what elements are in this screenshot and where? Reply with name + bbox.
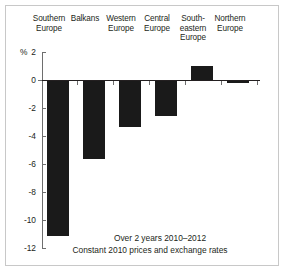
y-tick-label-neg8: -8 xyxy=(10,188,36,197)
x-tick-mark-3 xyxy=(149,81,150,85)
x-tick-mark-4 xyxy=(185,81,186,85)
y-tick-mark-neg8 xyxy=(42,192,46,193)
y-tick-mark-2 xyxy=(42,52,46,53)
y-tick-label-neg2: -2 xyxy=(10,104,36,113)
bar-southern-europe xyxy=(47,81,69,236)
x-tick-mark-2 xyxy=(113,81,114,85)
x-tick-mark-5 xyxy=(221,81,222,85)
y-tick-label-0: 0 xyxy=(10,76,36,85)
y-tick-mark-neg6 xyxy=(42,164,46,165)
bar-western-europe xyxy=(119,81,141,127)
y-tick-label-neg12: -12 xyxy=(10,244,36,253)
y-tick-mark-neg2 xyxy=(42,108,46,109)
y-tick-label-neg6: -6 xyxy=(10,160,36,169)
y-tick-label-neg10: -10 xyxy=(10,216,36,225)
bar-south-eastern-europe xyxy=(191,66,213,80)
y-tick-mark-0 xyxy=(38,80,42,81)
bar-northern-europe xyxy=(227,81,249,83)
y-tick-label-2: 2 xyxy=(10,48,36,57)
x-tick-mark-6 xyxy=(257,81,258,85)
caption-line-1: Over 2 years 2010–2012 xyxy=(60,233,260,243)
y-tick-label-neg4: -4 xyxy=(10,132,36,141)
x-tick-mark-1 xyxy=(77,81,78,85)
caption-line-2: Constant 2010 prices and exchange rates xyxy=(40,245,260,255)
y-tick-mark-neg4 xyxy=(42,136,46,137)
chart-figure: Southern Europe Balkans Western Europe C… xyxy=(0,0,284,271)
bar-central-europe xyxy=(155,81,177,116)
y-tick-mark-neg10 xyxy=(42,220,46,221)
bar-balkans xyxy=(83,81,105,159)
